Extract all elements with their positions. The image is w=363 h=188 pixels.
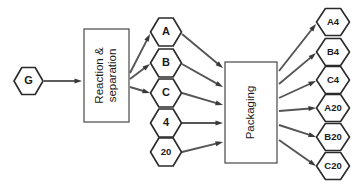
flow-diagram-svg: GABC420A4B4C4A20B20C20Reaction &separati… (0, 0, 363, 188)
intermediate-node-20[interactable]: 20 (151, 138, 182, 166)
product-node-c4[interactable]: C4 (317, 67, 350, 94)
process-label-line: Reaction & (93, 47, 105, 104)
node-label: A20 (324, 102, 341, 113)
edge-4-packaging (182, 121, 223, 126)
node-label: 20 (161, 146, 172, 157)
edge-line (279, 84, 311, 98)
edge-g-reaction (44, 79, 82, 84)
process-box-packaging[interactable]: Packaging (225, 62, 277, 163)
node-label: B (162, 56, 170, 68)
edge-packaging-b20 (279, 125, 316, 137)
node-label: C4 (327, 74, 340, 85)
arrow-head-icon (216, 121, 224, 126)
node-label: C (162, 86, 170, 98)
product-node-c20[interactable]: C20 (317, 153, 350, 180)
intermediate-node-b[interactable]: B (151, 49, 182, 77)
arrow-head-icon (142, 88, 150, 93)
arrow-head-icon (308, 132, 316, 137)
edge-b-packaging (182, 64, 223, 87)
node-label: B20 (324, 131, 341, 142)
edge-packaging-b4 (279, 53, 316, 84)
edge-line (279, 125, 310, 135)
product-node-a20[interactable]: A20 (317, 95, 350, 122)
product-node-b4[interactable]: B4 (317, 39, 350, 66)
edge-a-packaging (182, 34, 223, 68)
arrow-head-icon (215, 81, 223, 87)
edge-line (182, 34, 218, 64)
arrow-head-icon (215, 100, 223, 105)
edge-line (130, 87, 144, 91)
edge-packaging-c20 (279, 140, 316, 166)
process-label-group: Reaction &separation (93, 47, 119, 104)
arrow-head-icon (308, 81, 316, 86)
edge-c-packaging (182, 93, 223, 105)
intermediate-node-4[interactable]: 4 (151, 109, 182, 137)
edge-packaging-c4 (279, 81, 316, 98)
edge-line (279, 140, 311, 163)
intermediate-node-a[interactable]: A (151, 18, 182, 46)
node-label: A (162, 25, 170, 37)
node-label: B4 (327, 46, 340, 57)
process-label-group: Packaging (244, 86, 256, 140)
edge-reaction-c (130, 87, 150, 93)
edge-line (279, 108, 310, 111)
arrow-head-icon (144, 34, 150, 42)
node-label: G (24, 74, 33, 86)
process-label-line: separation (106, 49, 118, 103)
arrow-head-icon (308, 106, 316, 111)
process-box-reaction-separation[interactable]: Reaction &separation (84, 29, 129, 122)
input-node-g[interactable]: G (14, 68, 43, 95)
edge-line (182, 64, 218, 84)
arrow-head-icon (215, 141, 223, 146)
edge-line (182, 93, 217, 103)
edge-packaging-a4 (279, 24, 316, 71)
node-label: A4 (327, 16, 340, 27)
edge-packaging-a20 (279, 106, 316, 111)
node-label: C20 (324, 160, 341, 171)
node-label: 4 (163, 116, 170, 128)
edge-line (279, 57, 311, 84)
flow-diagram-canvas: GABC420A4B4C4A20B20C20Reaction &separati… (0, 0, 363, 188)
arrow-head-icon (75, 79, 83, 84)
product-node-b20[interactable]: B20 (317, 124, 350, 151)
edge-line (182, 143, 217, 152)
product-node-a4[interactable]: A4 (317, 9, 350, 36)
edge-20-packaging (182, 141, 223, 152)
edge-line (279, 29, 312, 71)
process-label-line: Packaging (244, 86, 256, 140)
intermediate-node-c[interactable]: C (151, 79, 182, 107)
